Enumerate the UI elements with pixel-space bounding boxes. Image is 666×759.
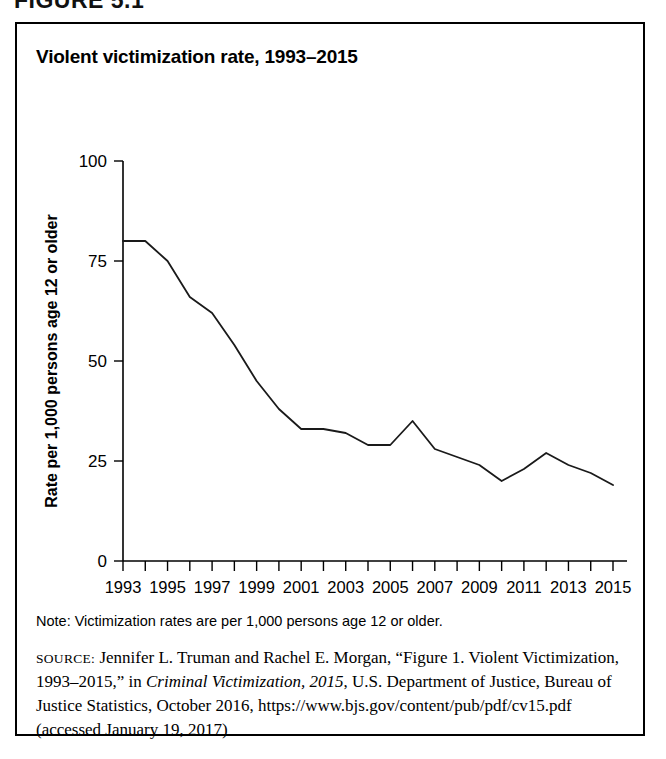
x-axis-tick-label: 1995 [149,578,186,596]
y-axis-tick-label: 25 [88,452,107,471]
data-series-line [123,241,613,485]
x-axis-tick-label: 2003 [327,578,364,596]
y-axis-tick-label: 75 [88,252,107,271]
y-axis-tick-label: 0 [98,552,107,571]
x-axis-tick-label: 2015 [595,578,632,596]
x-axis-tick-label: 1993 [105,578,142,596]
figure-label: FIGURE 5.1 [14,0,144,14]
y-axis-tick-label: 100 [79,152,107,171]
chart-plot-area: 0255075100199319951997199920012003200520… [17,84,643,604]
x-axis-tick-label: 2009 [461,578,498,596]
y-axis-tick-label: 50 [88,352,107,371]
chart-source: source: Jennifer L. Truman and Rachel E.… [36,646,641,743]
y-axis-title: Rate per 1,000 persons age 12 or older [43,214,60,507]
chart-title: Violent victimization rate, 1993–2015 [36,46,358,68]
x-axis-tick-label: 2005 [372,578,409,596]
figure-box: Violent victimization rate, 1993–2015 02… [15,22,645,736]
x-axis-tick-label: 1999 [238,578,275,596]
x-axis-tick-label: 2011 [506,578,541,596]
chart-note: Note: Victimization rates are per 1,000 … [36,612,636,631]
x-axis-tick-label: 2001 [283,578,320,596]
source-label: source: [36,651,95,666]
line-chart: 0255075100199319951997199920012003200520… [17,84,643,604]
x-axis-tick-label: 1997 [194,578,231,596]
x-axis-tick-label: 2007 [416,578,453,596]
source-title-italic: Criminal Victimization, 2015 [146,672,344,691]
x-axis-tick-label: 2013 [550,578,587,596]
